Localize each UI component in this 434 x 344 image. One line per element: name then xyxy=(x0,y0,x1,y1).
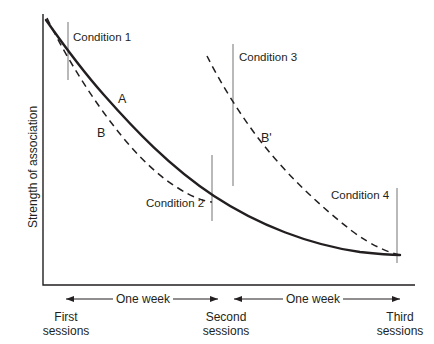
curve-b xyxy=(47,18,212,202)
curve-b-prime-label: B' xyxy=(261,131,272,145)
axis-frame xyxy=(43,14,415,285)
curve-a-label: A xyxy=(118,92,126,106)
interval-label-week-2: One week xyxy=(283,292,343,306)
curve-b-label: B xyxy=(97,126,105,140)
chart-canvas xyxy=(0,0,434,344)
session-label-third: Third sessions xyxy=(360,310,434,338)
condition-1-label: Condition 1 xyxy=(73,31,131,43)
figure-strength-of-association: Strength of association A B B' Condition… xyxy=(0,0,434,344)
interval-label-week-1: One week xyxy=(113,292,173,306)
condition-4-label: Condition 4 xyxy=(331,189,389,201)
y-axis-label: Strength of association xyxy=(26,106,40,228)
condition-3-label: Condition 3 xyxy=(239,51,297,63)
session-label-second: Second sessions xyxy=(186,310,266,338)
condition-2-label: Condition 2 xyxy=(146,197,204,209)
session-label-first: First sessions xyxy=(26,310,106,338)
curve-b-prime xyxy=(207,56,400,255)
